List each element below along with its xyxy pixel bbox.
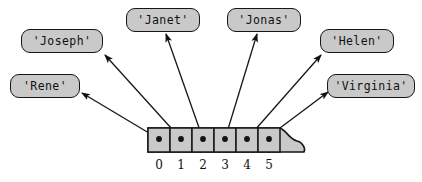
pointer-arrow-group: [82, 34, 328, 140]
arrow-to-joseph: [105, 55, 181, 139]
arrow-to-helen: [247, 55, 321, 139]
value-node-rene[interactable]: 'Rene': [10, 74, 80, 98]
value-node-helen[interactable]: 'Helen': [320, 29, 394, 53]
array-cells-group: [148, 128, 305, 152]
arrow-to-jonas: [225, 34, 257, 139]
value-node-joseph[interactable]: 'Joseph': [21, 29, 103, 53]
pointer-dot-4: [244, 136, 250, 142]
value-node-virginia[interactable]: 'Virginia': [327, 74, 415, 98]
pointer-dot-5: [266, 136, 272, 142]
array-index-label-1: 1: [171, 158, 191, 172]
pointer-dot-3: [222, 136, 228, 142]
pointer-dot-0: [156, 136, 162, 142]
pointer-dot-2: [200, 136, 206, 142]
array-index-label-4: 4: [237, 158, 257, 172]
arrow-to-janet: [166, 34, 203, 139]
array-index-label-3: 3: [215, 158, 235, 172]
value-node-jonas[interactable]: 'Jonas': [227, 8, 301, 32]
diagram-canvas: 'Joseph''Rene''Janet''Jonas''Helen''Virg…: [0, 0, 422, 182]
pointer-dot-1: [178, 136, 184, 142]
array-index-label-0: 0: [149, 158, 169, 172]
value-node-janet[interactable]: 'Janet': [126, 8, 200, 32]
array-index-label-5: 5: [259, 158, 279, 172]
array-index-label-2: 2: [193, 158, 213, 172]
